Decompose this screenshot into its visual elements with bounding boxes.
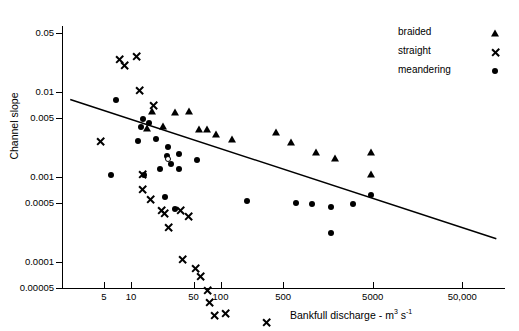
data-points [0, 0, 519, 252]
data-point-braided [272, 129, 280, 136]
data-point-straight [146, 195, 155, 204]
x-tick-label: 500 [275, 292, 291, 302]
y-tick-label: 0.05 [0, 28, 54, 38]
data-point-straight [184, 212, 193, 221]
data-point-braided [367, 148, 375, 155]
y-tick [56, 262, 63, 263]
data-point-meandering [157, 166, 163, 172]
y-tick-label-text: 0.005 [30, 113, 54, 123]
data-point-meandering [153, 136, 159, 142]
data-point-meandering [194, 157, 200, 163]
data-point-meandering [165, 144, 171, 150]
y-axis-line [62, 26, 63, 289]
x-tick-label: 50,000 [448, 292, 477, 302]
data-point-meandering [176, 166, 182, 172]
data-point-meandering [328, 230, 334, 236]
data-point-straight [160, 209, 169, 218]
y-tick-label: 0.0001 [0, 257, 54, 267]
data-point-straight [210, 311, 219, 320]
y-tick-label-text: 0.0001 [25, 257, 54, 267]
data-point-straight [205, 298, 214, 307]
chart-figure: Channel slope Bankfull discharge - m3 s-… [0, 0, 519, 331]
y-tick-label-text: 0.001 [30, 172, 54, 182]
y-tick-label: 0.00005 [0, 283, 54, 293]
data-point-braided [159, 123, 167, 130]
y-tick [56, 203, 63, 204]
data-point-meandering [244, 198, 250, 204]
data-point-straight [138, 185, 147, 194]
y-tick [56, 177, 63, 178]
x-tick [283, 282, 284, 289]
data-point-meandering [368, 192, 374, 198]
data-point-straight [203, 286, 212, 295]
data-point-meandering [135, 138, 141, 144]
x-axis-title: Bankfull discharge - m3 s-1 [290, 308, 412, 321]
data-point-braided [212, 131, 220, 138]
y-tick-label-text: 0.00005 [20, 283, 54, 293]
data-point-meandering [141, 172, 147, 178]
data-point-braided [203, 125, 211, 132]
data-point-straight [132, 52, 141, 61]
legend-label: braided [398, 26, 431, 37]
data-point-straight [164, 223, 173, 232]
y-tick-label: 0.001 [0, 172, 54, 182]
data-point-straight [262, 318, 271, 327]
x-tick [194, 282, 195, 289]
y-tick [56, 33, 63, 34]
data-point-braided [171, 108, 179, 115]
x-tick [462, 282, 463, 289]
x-tick [131, 282, 132, 289]
x-tick-label: 10 [126, 292, 137, 302]
x-tick-label: 5 [101, 292, 106, 302]
data-point-braided [312, 148, 320, 155]
legend-label: meandering [398, 64, 451, 75]
y-tick-label: 0.01 [0, 87, 54, 97]
legend-label: straight [398, 45, 431, 56]
x-tick [221, 282, 222, 289]
y-tick-label-text: 0.0005 [25, 198, 54, 208]
x-tick-label: 5000 [362, 292, 383, 302]
data-point-straight [135, 86, 144, 95]
data-point-braided [228, 136, 236, 143]
y-tick [56, 92, 63, 93]
x-axis-title-exp-minus1: -1 [406, 308, 412, 315]
data-point-meandering [293, 200, 299, 206]
data-point-braided [287, 138, 295, 145]
data-point-meandering [172, 206, 178, 212]
legend-marker-x-icon [491, 48, 500, 57]
data-point-meandering [138, 124, 144, 130]
x-tick [373, 282, 374, 289]
data-point-meandering [108, 172, 114, 178]
y-tick [56, 288, 63, 289]
data-point-straight [221, 309, 230, 318]
legend-marker-triangle-icon [491, 30, 499, 37]
x-axis-title-main: Bankfull discharge - m [290, 309, 394, 321]
data-point-braided [185, 108, 193, 115]
x-tick-label: 100 [213, 292, 229, 302]
data-point-meandering [140, 116, 146, 122]
data-point-meandering [176, 151, 182, 157]
y-tick-label-text: 0.05 [36, 28, 55, 38]
x-axis-title-mid: s [398, 309, 406, 321]
data-point-meandering [146, 120, 152, 126]
x-tick-label: 50 [188, 292, 199, 302]
data-point-straight [178, 255, 187, 264]
y-tick-label: 0.005 [0, 113, 54, 123]
data-point-meandering [113, 97, 119, 103]
data-point-meandering [328, 204, 334, 210]
data-point-meandering-open [165, 156, 171, 162]
data-point-meandering [162, 194, 168, 200]
y-tick-label: 0.0005 [0, 198, 54, 208]
data-point-braided [367, 170, 375, 177]
legend-marker-circle-icon [492, 68, 498, 74]
y-tick [56, 118, 63, 119]
y-tick-label-text: 0.01 [36, 87, 55, 97]
data-point-braided [331, 154, 339, 161]
data-point-straight [120, 61, 129, 70]
data-point-meandering [350, 201, 356, 207]
data-point-straight [196, 272, 205, 281]
data-point-straight [96, 137, 105, 146]
data-point-meandering [309, 201, 315, 207]
data-point-braided [148, 108, 156, 115]
x-tick [104, 282, 105, 289]
